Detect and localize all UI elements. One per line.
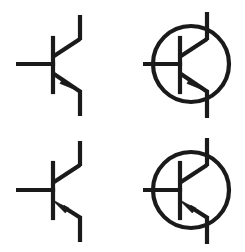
npn-open-collector-diagonal [54, 39, 80, 56]
symbol-npn-open [16, 15, 80, 116]
npn-circled-collector-diagonal [181, 39, 207, 56]
diagram-canvas [0, 0, 245, 252]
pnp-open-collector-diagonal [54, 165, 80, 182]
transistor-symbols-diagram [0, 0, 245, 252]
symbol-pnp-circled [143, 138, 229, 244]
symbol-npn-circled [143, 12, 229, 118]
npn-open-emitter-arrow-icon [60, 78, 78, 91]
npn-circled-emitter-arrow-icon [187, 78, 205, 91]
symbol-pnp-open [16, 141, 80, 242]
pnp-circled-collector-diagonal [181, 165, 207, 182]
